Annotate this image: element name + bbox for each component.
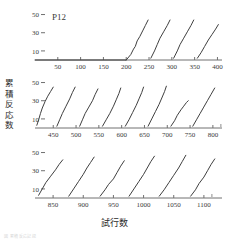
cumulative-record-figure: 累 積 反 応 数 501001502002503003504001030504… (0, 0, 229, 242)
x-tick-label: 800 (208, 131, 219, 139)
x-tick-label: 900 (78, 201, 89, 209)
x-tick-label: 350 (189, 63, 200, 71)
figure-caption-faint: 図 累積反応記録 (4, 233, 36, 239)
x-tick-label: 150 (98, 63, 109, 71)
cumulative-curve (197, 25, 218, 59)
x-axis-title: 試行数 (0, 216, 229, 229)
y-tick-label: 10 (32, 48, 40, 56)
x-tick-label: 600 (116, 131, 127, 139)
y-tick-label: 10 (32, 186, 40, 194)
cumulative-curve (191, 159, 215, 196)
cumulative-curve (125, 87, 143, 126)
x-tick-label: 1100 (197, 201, 211, 209)
cumulative-curve (193, 88, 215, 126)
plot-canvas: 5010015020025030035040010305045050055060… (0, 0, 229, 242)
x-tick-label: 50 (54, 63, 62, 71)
x-tick-label: 200 (121, 63, 132, 71)
y-tick-label: 50 (32, 79, 40, 87)
cumulative-curve (151, 20, 170, 58)
cumulative-curve (100, 161, 124, 196)
x-tick-label: 450 (48, 131, 59, 139)
panel-row-2: 450500550600650700750800103050 (32, 79, 222, 139)
x-tick-label: 400 (212, 63, 223, 71)
y-tick-label: 30 (32, 167, 40, 175)
x-tick-label: 1000 (137, 201, 152, 209)
cumulative-curve (174, 20, 194, 58)
panel-row-3: 850900950100010501100103050 (32, 149, 222, 209)
cumulative-curve (39, 160, 63, 195)
cumulative-curve (57, 87, 75, 126)
cumulative-curve (37, 87, 53, 125)
y-tick-label: 50 (32, 11, 40, 19)
y-tick-label: 50 (32, 149, 40, 157)
y-tick-label: 30 (32, 29, 40, 37)
cumulative-curve (148, 86, 166, 126)
cumulative-curve (126, 20, 148, 60)
cumulative-curve (159, 155, 186, 196)
x-tick-label: 950 (108, 201, 119, 209)
x-tick-label: 700 (162, 131, 173, 139)
cumulative-curve (69, 157, 94, 196)
y-tick-label: 30 (32, 97, 40, 105)
cumulative-curve (80, 89, 98, 126)
x-tick-label: 250 (144, 63, 155, 71)
cumulative-curve (103, 88, 121, 126)
panel-subject-label: P12 (52, 12, 66, 22)
x-tick-label: 500 (71, 131, 82, 139)
x-tick-label: 650 (139, 131, 150, 139)
cumulative-curve (171, 101, 188, 126)
cumulative-curve (129, 156, 154, 196)
x-tick-label: 300 (167, 63, 178, 71)
x-tick-label: 750 (185, 131, 196, 139)
x-tick-label: 550 (94, 131, 105, 139)
x-tick-label: 850 (48, 201, 59, 209)
x-tick-label: 100 (75, 63, 86, 71)
x-tick-label: 1050 (167, 201, 182, 209)
